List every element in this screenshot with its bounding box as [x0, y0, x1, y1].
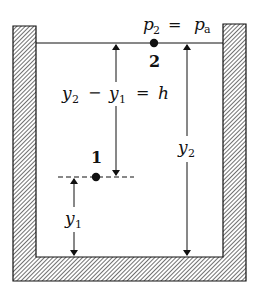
point-2-label: 2 [149, 52, 160, 71]
svg-text:=: = [136, 83, 149, 102]
point-2-dot [150, 39, 158, 47]
svg-text:y: y [108, 83, 119, 103]
svg-text:y: y [64, 208, 75, 228]
svg-text:2: 2 [153, 24, 160, 37]
y1-dimension-label: y 1 [64, 208, 82, 231]
tank-walls [13, 24, 246, 281]
svg-text:1: 1 [119, 93, 126, 106]
svg-text:h: h [158, 83, 169, 103]
tank-wall-shape [13, 24, 246, 281]
point-1-label: 1 [91, 148, 102, 167]
surface-pressure-label: p 2 = p a [143, 14, 211, 37]
svg-text:y: y [61, 83, 72, 103]
svg-text:a: a [204, 23, 211, 36]
hydrostatic-tank-diagram: 2 p 2 = p a y 2 − y 1 = h y 2 1 y 1 [0, 0, 258, 284]
svg-text:y: y [177, 137, 188, 157]
svg-text:1: 1 [75, 218, 82, 231]
height-difference-label: y 2 − y 1 = h [61, 83, 169, 106]
svg-text:2: 2 [72, 93, 79, 106]
svg-text:2: 2 [188, 147, 195, 160]
svg-text:=: = [168, 15, 181, 34]
svg-text:−: − [88, 83, 101, 102]
y2-dimension-label: y 2 [177, 137, 195, 160]
point-1-dot [92, 173, 100, 181]
